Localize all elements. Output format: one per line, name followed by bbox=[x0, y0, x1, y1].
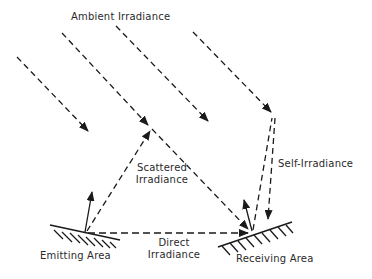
direct-label-line2: Irradiance bbox=[144, 249, 204, 261]
ambient-ray-1 bbox=[17, 57, 88, 131]
scattered-label-line2: Irradiance bbox=[132, 174, 192, 186]
direct-irradiance-label: Direct Irradiance bbox=[144, 237, 204, 261]
receiving-area-label: Receiving Area bbox=[236, 253, 313, 265]
self-down-ray bbox=[268, 118, 275, 219]
emitting-area-label: Emitting Area bbox=[40, 250, 111, 262]
self-irradiance-label: Self-Irradiance bbox=[278, 158, 353, 170]
ambient-ray-3 bbox=[116, 26, 208, 121]
ambient-ray-4 bbox=[193, 32, 271, 112]
scattered-label-line1: Scattered bbox=[132, 162, 192, 174]
ambient-ray-2 bbox=[62, 33, 148, 125]
scattered-irradiance-label: Scattered Irradiance bbox=[132, 162, 192, 186]
ambient-irradiance-label: Ambient Irradiance bbox=[71, 11, 170, 23]
direct-label-line1: Direct bbox=[144, 237, 204, 249]
emitting-normal-arrow bbox=[85, 192, 92, 232]
receiving-surface bbox=[218, 222, 293, 255]
self-up-ray bbox=[253, 118, 272, 230]
